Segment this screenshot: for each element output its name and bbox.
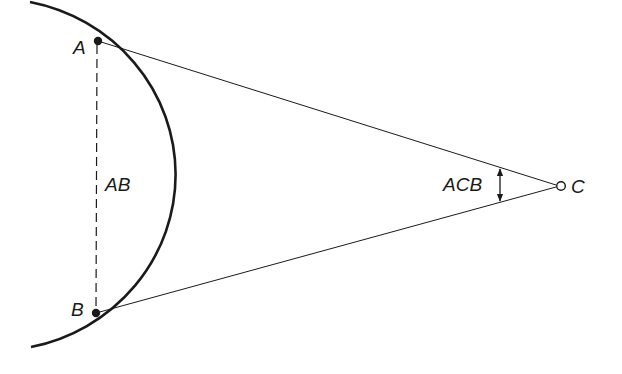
label-b: B: [71, 299, 84, 320]
point-b-dot: [92, 309, 100, 317]
ray-ac: [98, 41, 556, 185]
chord-ab: [96, 45, 97, 309]
label-a: A: [72, 37, 86, 58]
circle-arc: [30, 2, 176, 347]
angular-size-diagram: A B C AB ACB: [0, 0, 622, 374]
point-c-circle: [557, 182, 566, 191]
label-angle-acb: ACB: [442, 174, 482, 195]
point-a-dot: [94, 37, 102, 45]
ray-bc: [96, 187, 556, 313]
label-c: C: [571, 176, 585, 197]
label-chord-ab: AB: [104, 174, 131, 195]
